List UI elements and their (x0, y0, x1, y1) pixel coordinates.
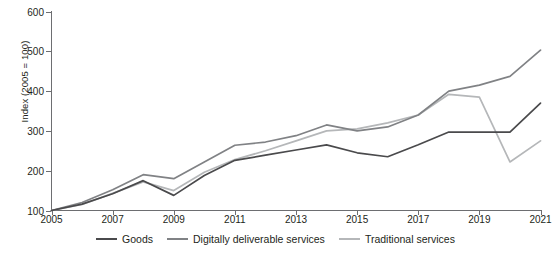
legend-swatch (339, 238, 360, 240)
legend-item[interactable]: Goods (96, 233, 153, 245)
legend-swatch (96, 238, 117, 240)
series-line (52, 50, 541, 210)
legend-label: Goods (122, 233, 153, 245)
series-line (52, 94, 541, 210)
legend-label: Traditional services (365, 233, 455, 245)
legend-item[interactable]: Traditional services (339, 233, 455, 245)
legend-item[interactable]: Digitally deliverable services (167, 233, 325, 245)
legend-label: Digitally deliverable services (193, 233, 325, 245)
chart-legend: GoodsDigitally deliverable servicesTradi… (0, 233, 551, 245)
series-line (52, 103, 541, 210)
legend-swatch (167, 238, 188, 240)
